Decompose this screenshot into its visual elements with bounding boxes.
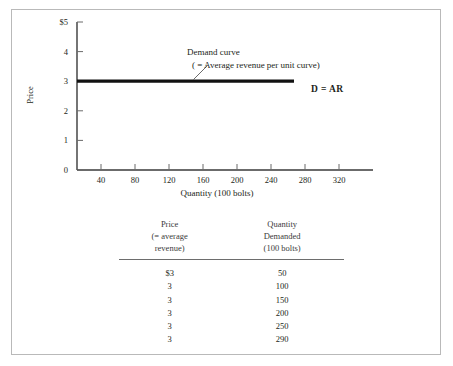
- x-tick-label-160: 160: [190, 176, 216, 185]
- table-header-quantity-line-2: Demanded: [220, 230, 344, 242]
- figure-frame: $5 4 3 2 1 0 40 80 120 160 200 240 280 3…: [11, 9, 441, 355]
- table-header-quantity: Quantity Demanded (100 bolts): [220, 218, 344, 260]
- x-tick-label-320: 320: [326, 176, 352, 185]
- annotation-line-1: Demand curve: [187, 46, 320, 59]
- x-tick-label-240: 240: [258, 176, 284, 185]
- chart-plot-area: $5 4 3 2 1 0 40 80 120 160 200 240 280 3…: [12, 10, 442, 210]
- y-axis-ticks: [77, 22, 83, 170]
- cell-price: 3: [119, 280, 220, 293]
- y-tick-label-1: 1: [46, 136, 68, 145]
- table-header-quantity-line-3: (100 bolts): [220, 242, 344, 254]
- cell-quantity: 100: [220, 280, 344, 293]
- demand-curve-annotation: Demand curve ( = Average revenue per uni…: [187, 46, 320, 72]
- table-row: 3 200: [119, 307, 344, 320]
- cell-quantity: 290: [220, 333, 344, 346]
- x-tick-label-80: 80: [122, 176, 148, 185]
- cell-price: 3: [119, 307, 220, 320]
- table-header-price-line-1: Price: [119, 218, 220, 230]
- demand-schedule-table: Price (= average revenue) Quantity Deman…: [119, 218, 344, 346]
- y-tick-label-4: 4: [46, 48, 68, 57]
- table-row: 3 100: [119, 280, 344, 293]
- cell-price: 3: [119, 320, 220, 333]
- cell-price: 3: [119, 294, 220, 307]
- y-tick-label-0: 0: [46, 166, 68, 175]
- x-tick-label-200: 200: [224, 176, 250, 185]
- table-header-price-line-2: (= average: [119, 230, 220, 242]
- x-axis-title: Quantity (100 bolts): [72, 188, 362, 198]
- x-tick-label-40: 40: [88, 176, 114, 185]
- x-axis-ticks: [101, 164, 339, 170]
- table-body: $3 50 3 100 3 150 3 200 3 250: [119, 260, 344, 347]
- cell-price: $3: [119, 260, 220, 281]
- x-tick-label-120: 120: [156, 176, 182, 185]
- table-row: $3 50: [119, 260, 344, 281]
- table-header-row: Price (= average revenue) Quantity Deman…: [119, 218, 344, 260]
- cell-price: 3: [119, 333, 220, 346]
- table-row: 3 250: [119, 320, 344, 333]
- table-row: 3 150: [119, 294, 344, 307]
- table-header-price-line-3: revenue): [119, 242, 220, 254]
- cell-quantity: 200: [220, 307, 344, 320]
- y-tick-label-5: $5: [46, 18, 68, 27]
- cell-quantity: 250: [220, 320, 344, 333]
- y-axis-title: Price: [25, 65, 35, 125]
- y-tick-label-2: 2: [46, 107, 68, 116]
- demand-curve-label: D = AR: [311, 84, 344, 94]
- annotation-line-2: ( = Average revenue per unit curve): [187, 59, 320, 72]
- y-tick-label-3: 3: [46, 77, 68, 86]
- table-row: 3 290: [119, 333, 344, 346]
- cell-quantity: 50: [220, 260, 344, 281]
- x-tick-label-280: 280: [292, 176, 318, 185]
- table-header-quantity-line-1: Quantity: [220, 218, 344, 230]
- table-header-price: Price (= average revenue): [119, 218, 220, 260]
- cell-quantity: 150: [220, 294, 344, 307]
